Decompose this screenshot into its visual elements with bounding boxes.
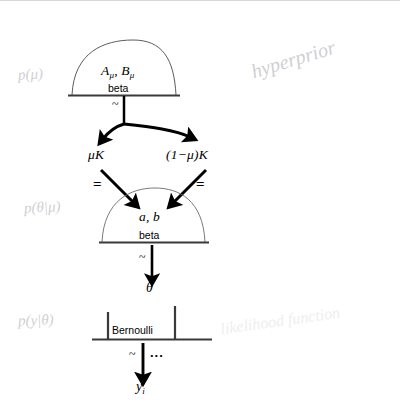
observation-label-sub: i <box>142 386 145 396</box>
hyperprior-distribution-name: beta <box>108 82 128 94</box>
hyperprior-params-mid: , B <box>114 63 130 78</box>
annotation-p-theta-given-mu: p(θ|μ) <box>24 198 61 217</box>
bernoulli-ellipsis: ... <box>150 345 164 360</box>
arrow-mu-k-to-prior <box>101 170 134 203</box>
mu-k-equals: = <box>93 176 102 193</box>
bernoulli-distribution-name: Bernoulli <box>112 324 153 336</box>
annotation-p-y-given-theta: p(y|θ) <box>18 311 54 329</box>
hyperprior-params: Aμ, Bμ <box>101 63 135 80</box>
one-minus-mu-k-equals: = <box>196 176 205 193</box>
arrow-to-one-minus-mu-k <box>124 124 190 137</box>
theta-label: θ <box>146 280 153 296</box>
prior-relation-tilde: ~ <box>139 250 146 265</box>
one-minus-mu-k-open: (1−μ) <box>166 147 199 162</box>
annotation-p-mu: p(μ) <box>17 65 43 84</box>
hyperprior-params-b-sub: μ <box>130 70 135 80</box>
hyperprior-relation-tilde: ~ <box>112 97 119 112</box>
observation-label: yi <box>136 379 145 396</box>
bernoulli-relation-tilde: ~ <box>129 347 136 362</box>
prior-distribution-name: beta <box>139 229 159 241</box>
mu-k-label: μK <box>88 147 104 163</box>
one-minus-mu-k-label: (1−μ)K <box>166 147 208 163</box>
arrow-to-mu-k <box>103 124 124 139</box>
one-minus-mu-k-k: K <box>199 147 208 162</box>
prior-params: a, b <box>139 209 160 225</box>
